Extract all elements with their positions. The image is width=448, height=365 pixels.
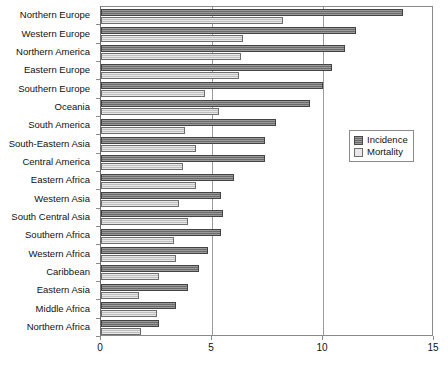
bar-chart: Northern EuropeWestern EuropeNorthern Am… [0, 0, 448, 365]
bar-incidence [101, 174, 234, 181]
category-label: Western Africa [28, 249, 90, 259]
bar-mortality [101, 218, 188, 225]
bar-mortality [101, 292, 139, 299]
category-label: Northern America [16, 47, 90, 57]
bar-mortality [101, 310, 157, 317]
value-tick [211, 336, 212, 340]
plot-area [100, 6, 433, 336]
bar-mortality [101, 182, 196, 189]
bar-group [101, 99, 432, 117]
bar-incidence [101, 100, 310, 107]
bar-incidence [101, 119, 276, 126]
chart-legend: IncidenceMortality [349, 130, 414, 162]
category-label: Eastern Africa [31, 175, 90, 185]
bar-incidence [101, 284, 188, 291]
bar-mortality [101, 237, 174, 244]
value-tick-label: 15 [413, 342, 448, 353]
bar-group [101, 264, 432, 282]
bar-group [101, 319, 432, 337]
bar-incidence [101, 64, 332, 71]
bar-group [101, 282, 432, 300]
category-label: South Central Asia [11, 212, 90, 222]
category-label: Southern Europe [18, 84, 90, 94]
bar-group [101, 245, 432, 263]
bar-group [101, 172, 432, 190]
category-label: Northern Africa [27, 322, 90, 332]
bar-incidence [101, 27, 356, 34]
bar-mortality [101, 255, 176, 262]
bar-group [101, 25, 432, 43]
category-label: Western Europe [22, 29, 90, 39]
bar-mortality [101, 127, 185, 134]
value-tick [433, 336, 434, 340]
bar-group [101, 80, 432, 98]
legend-label: Mortality [367, 146, 403, 158]
bar-mortality [101, 17, 283, 24]
category-label: Eastern Asia [37, 285, 90, 295]
legend-item-mortality[interactable]: Mortality [354, 146, 408, 158]
category-label: South America [28, 120, 90, 130]
category-label: Eastern Europe [24, 65, 90, 75]
value-tick-label: 0 [80, 342, 120, 353]
category-label: Southern Africa [25, 230, 90, 240]
bar-incidence [101, 137, 265, 144]
bar-incidence [101, 45, 345, 52]
bar-rows [101, 7, 432, 335]
bar-group [101, 227, 432, 245]
bar-incidence [101, 247, 208, 254]
bar-group [101, 44, 432, 62]
category-label: South-Eastern Asia [9, 139, 90, 149]
bar-mortality [101, 90, 205, 97]
category-label: Northern Europe [20, 10, 90, 20]
category-label: Middle Africa [36, 304, 90, 314]
value-tick [322, 336, 323, 340]
bar-mortality [101, 163, 183, 170]
bar-group [101, 190, 432, 208]
bar-incidence [101, 9, 403, 16]
legend-swatch-icon [354, 136, 363, 145]
bar-mortality [101, 72, 239, 79]
bar-mortality [101, 53, 241, 60]
bar-mortality [101, 145, 196, 152]
value-tick [100, 336, 101, 340]
bar-incidence [101, 265, 199, 272]
bar-group [101, 300, 432, 318]
bar-mortality [101, 35, 243, 42]
bar-mortality [101, 328, 141, 335]
bar-incidence [101, 210, 223, 217]
legend-item-incidence[interactable]: Incidence [354, 134, 408, 146]
bar-incidence [101, 82, 323, 89]
bar-group [101, 7, 432, 25]
category-label: Caribbean [46, 267, 90, 277]
bar-mortality [101, 273, 159, 280]
category-label: Oceania [55, 102, 90, 112]
bar-incidence [101, 229, 221, 236]
bar-incidence [101, 302, 176, 309]
bar-group [101, 209, 432, 227]
bar-mortality [101, 108, 219, 115]
bar-incidence [101, 155, 265, 162]
bar-incidence [101, 320, 159, 327]
value-tick-label: 10 [302, 342, 342, 353]
category-axis: Northern EuropeWestern EuropeNorthern Am… [0, 6, 96, 336]
bar-mortality [101, 200, 179, 207]
category-label: Central America [22, 157, 90, 167]
value-tick-label: 5 [191, 342, 231, 353]
bar-incidence [101, 192, 221, 199]
category-label: Western Asia [34, 194, 90, 204]
legend-swatch-icon [354, 148, 363, 157]
legend-label: Incidence [367, 134, 408, 146]
bar-group [101, 62, 432, 80]
